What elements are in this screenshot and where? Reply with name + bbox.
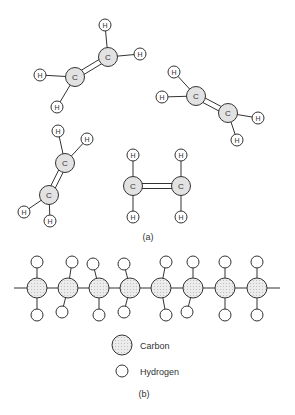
carbon-atom: C [99,48,118,67]
chain-hydrogen-atom [219,309,231,321]
svg-text:H: H [130,214,135,221]
chain-hydrogen-atom [181,306,193,318]
chain-carbon-atom [183,278,203,298]
chain-hydrogen-atom [56,306,68,318]
hydrogen-atom: H [99,19,111,31]
hydrogen-atom: H [127,149,139,161]
chain-hydrogen-atom [160,309,172,321]
svg-text:H: H [102,22,107,29]
svg-text:H: H [234,137,239,144]
chain-carbon-atom [120,278,140,298]
carbon-atom: C [219,104,238,123]
svg-text:H: H [178,152,183,159]
chain-carbon-atom [89,278,109,298]
chain-hydrogen-atom [251,309,263,321]
chain-carbon-atom [58,278,78,298]
legend-carbon-label: Carbon [140,341,170,351]
carbon-atom: C [56,154,75,173]
hydrogen-atom: H [252,112,264,124]
polymer-diagram: HHHHCCHHHHCCHHHHCCHHHHCC (a) Carbon Hydr… [0,0,295,415]
svg-text:H: H [37,72,42,79]
svg-text:C: C [178,182,184,191]
chain-hydrogen-atom [118,258,130,270]
legend-carbon-icon [112,335,132,355]
legend: Carbon Hydrogen [112,335,179,377]
hydrogen-atom: H [175,211,187,223]
hydrogen-atom: H [81,133,93,145]
part-b-label: (b) [139,389,150,399]
chain-carbon-atom [151,278,171,298]
chain-hydrogen-atom [31,309,43,321]
hydrogen-atom: H [51,101,63,113]
ethylene-molecule: HHHHCC [18,125,93,227]
chain-hydrogen-atom [118,306,130,318]
svg-text:H: H [47,218,52,225]
svg-text:C: C [62,159,68,168]
hydrogen-atom: H [168,66,180,78]
legend-hydrogen-label: Hydrogen [140,367,179,377]
chain-hydrogen-atom [93,309,105,321]
part-a-label: (a) [143,232,154,242]
hydrogen-atom: H [175,149,187,161]
carbon-atom: C [40,186,59,205]
hydrogen-atom: H [127,211,139,223]
hydrogen-atom: H [231,134,243,146]
svg-text:H: H [84,136,89,143]
ethylene-molecule: HHHHCC [124,149,191,223]
hydrogen-atom: H [156,91,168,103]
svg-text:H: H [55,128,60,135]
svg-text:H: H [171,69,176,76]
chain-hydrogen-atom [160,256,172,268]
svg-text:H: H [159,94,164,101]
chain-hydrogen-atom [31,256,43,268]
carbon-atom: C [172,177,191,196]
ethylene-molecule: HHHHCC [34,19,146,113]
svg-text:H: H [130,152,135,159]
svg-text:C: C [130,182,136,191]
carbon-atom: C [124,177,143,196]
ethylene-molecule: HHHHCC [156,66,264,146]
svg-text:C: C [46,191,52,200]
chain-hydrogen-atom [219,256,231,268]
svg-text:H: H [137,51,142,58]
hydrogen-atom: H [18,206,30,218]
chain-hydrogen-atom [66,256,78,268]
hydrogen-atom: H [134,48,146,60]
chain-carbon-atom [247,278,267,298]
svg-text:H: H [54,104,59,111]
chain-carbon-atom [27,278,47,298]
hydrogen-atom: H [34,69,46,81]
chain-carbon-atom [215,278,235,298]
svg-text:C: C [225,109,231,118]
svg-text:C: C [193,92,199,101]
svg-text:H: H [178,214,183,221]
svg-text:C: C [72,73,78,82]
chain-hydrogen-atom [187,256,199,268]
svg-text:C: C [105,53,111,62]
chain-hydrogen-atom [87,258,99,270]
hydrogen-atom: H [44,215,56,227]
hydrogen-atom: H [52,125,64,137]
carbon-atom: C [187,87,206,106]
carbon-atom: C [66,68,85,87]
svg-text:H: H [21,209,26,216]
svg-text:H: H [255,115,260,122]
legend-hydrogen-icon [116,365,128,377]
chain-hydrogen-atom [251,256,263,268]
